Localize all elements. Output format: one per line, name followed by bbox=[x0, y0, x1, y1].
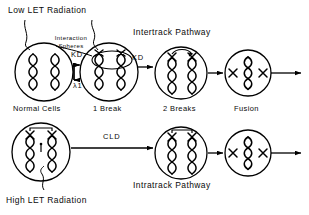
interaction-spheres-label-line2: Spheres bbox=[43, 43, 99, 49]
rate-label-cld: CLD bbox=[103, 133, 120, 141]
title-low-let-radiation: Low LET Radiation bbox=[8, 6, 86, 15]
caption-fusion: Fusion bbox=[234, 105, 259, 113]
cell-fusion-intratrack bbox=[225, 130, 271, 176]
rate-label-kd-2: KD bbox=[132, 54, 144, 62]
cell-one-break bbox=[80, 43, 138, 101]
cell-normal-cells bbox=[15, 43, 73, 101]
interaction-spheres-label-line1: Interaction bbox=[43, 35, 99, 41]
pathway-label-intratrack: Intratrack Pathway bbox=[133, 181, 211, 190]
leader-low-let-left bbox=[25, 20, 30, 50]
caption-normal-cells: Normal Cells bbox=[13, 105, 61, 113]
caption-one-break: 1 Break bbox=[93, 105, 122, 113]
pathway-label-intertrack: Intertrack Pathway bbox=[133, 28, 211, 37]
rate-label-lambda-1: λ1 bbox=[73, 82, 83, 90]
cell-two-breaks bbox=[155, 47, 207, 99]
caption-two-breaks: 2 Breaks bbox=[163, 105, 196, 113]
cell-fusion bbox=[225, 50, 271, 96]
radiation-pathway-diagram: Low LET Radiation Interaction Spheres In… bbox=[0, 0, 309, 215]
rate-label-kd-1: KD bbox=[71, 51, 83, 59]
title-high-let-radiation: High LET Radiation bbox=[6, 196, 87, 205]
cell-two-breaks-intratrack bbox=[155, 127, 207, 179]
arrow-kd-forward-1 bbox=[73, 65, 79, 80]
